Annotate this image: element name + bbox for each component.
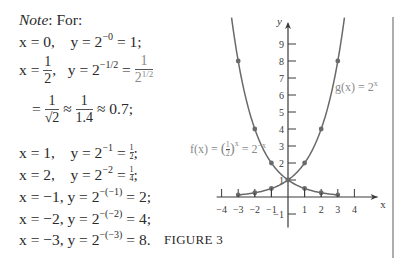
g-curve-label: g(x) = 2x — [335, 80, 378, 95]
x-tick-label: −2 — [249, 204, 260, 215]
data-point — [252, 127, 257, 132]
f-label-tail: = 2 — [239, 142, 258, 156]
f-curve — [232, 18, 338, 195]
y-tick-label: −1 — [273, 209, 284, 220]
data-point — [286, 178, 291, 183]
y-tick-label: 6 — [279, 90, 284, 101]
x-tick-label: 1 — [302, 204, 307, 215]
y-tick-label: 7 — [279, 73, 284, 84]
x-tick-label: −3 — [233, 204, 244, 215]
y-tick-label: 4 — [279, 124, 284, 135]
x-tick-label: 3 — [335, 204, 340, 215]
data-point — [302, 161, 307, 166]
data-point — [335, 59, 340, 64]
x-tick-label: −4 — [216, 204, 227, 215]
x-tick-label: 4 — [352, 204, 357, 215]
x-axis-label: x — [380, 198, 386, 210]
f-label-fraction: 12 — [226, 141, 230, 158]
denominator: 2 — [226, 149, 230, 158]
data-point — [236, 59, 241, 64]
y-tick-label: 9 — [279, 39, 284, 50]
g-label-text: g(x) = 2 — [335, 80, 374, 94]
exponential-chart: xy−4−3−2−11234−1123456789 — [0, 0, 404, 262]
y-tick-label: 2 — [279, 158, 284, 169]
f-label-exponent: x — [235, 139, 239, 148]
g-label-exponent: x — [374, 79, 378, 88]
y-tick-label: 3 — [279, 141, 284, 152]
f-label-text: f(x) = — [190, 142, 221, 156]
y-tick-label: 5 — [279, 107, 284, 118]
x-tick-label: 2 — [319, 204, 324, 215]
f-curve-label: f(x) = (12)x = 2−x — [190, 140, 266, 159]
data-point — [269, 161, 274, 166]
data-point — [319, 127, 324, 132]
y-axis-label: y — [276, 15, 282, 27]
f-label-tail-exponent: −x — [258, 141, 267, 150]
y-tick-label: 8 — [279, 56, 284, 67]
